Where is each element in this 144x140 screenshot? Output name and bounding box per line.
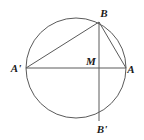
segment-chord-b-a <box>99 22 126 68</box>
geometry-figure: A' M A B B' <box>0 0 144 140</box>
point-label-b-prime: B' <box>96 123 107 135</box>
point-label-m: M <box>85 55 97 67</box>
point-label-a: A <box>126 63 134 75</box>
point-label-a-prime: A' <box>10 62 21 74</box>
point-label-b: B <box>99 7 107 19</box>
geometry-canvas: A' M A B B' <box>0 0 144 140</box>
